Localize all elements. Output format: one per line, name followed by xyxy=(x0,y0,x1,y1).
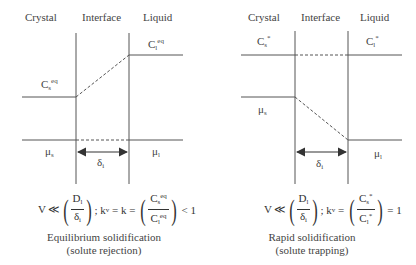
crystal-header: Crystal xyxy=(248,11,280,23)
rapid-solidification-panel: Crystal Interface Liquid Cs* Cl* μs μl δ… xyxy=(208,0,416,265)
cl-eq-label: Cleq xyxy=(148,38,164,52)
mu-l-label: μl xyxy=(152,146,160,159)
partition-fraction: Cseq Cleq xyxy=(148,190,169,229)
equilibrium-caption: Equilibrium solidification (solute rejec… xyxy=(0,231,208,257)
interface-header: Interface xyxy=(82,11,121,23)
cs-star-label: Cs* xyxy=(257,35,271,49)
mu-s-label: μs xyxy=(45,146,54,159)
interface-header: Interface xyxy=(301,11,340,23)
partition-fraction: Cs* Cl* xyxy=(357,190,375,229)
diffusion-fraction: Dl δi xyxy=(297,192,311,227)
mu-l-label: μl xyxy=(374,148,382,161)
rapid-equation: V ≪ ( Dl δi ) ; kv = ( Cs* Cl* ) = 1 xyxy=(264,190,402,229)
cl-star-label: Cl* xyxy=(366,35,379,49)
equilibrium-equation: V ≪ ( Dl δi ) ; kv = k = ( Cseq Cleq ) <… xyxy=(38,190,196,229)
liquid-header: Liquid xyxy=(360,11,389,23)
liquid-header: Liquid xyxy=(143,11,172,23)
delta-i-label: δi xyxy=(97,157,104,170)
crystal-header: Crystal xyxy=(25,11,57,23)
rapid-profile-diagram xyxy=(208,0,416,190)
rapid-caption: Rapid solidification (solute trapping) xyxy=(208,231,416,257)
equilibrium-solidification-panel: Crystal Interface Liquid Cseq Cleq μs μl… xyxy=(0,0,208,265)
interface-concentration-dashed xyxy=(76,55,129,97)
mu-s-label: μs xyxy=(258,104,267,117)
delta-i-label: δi xyxy=(316,158,323,171)
diffusion-fraction: Dl δi xyxy=(71,192,85,227)
interface-potential-dashed xyxy=(295,97,348,140)
cs-eq-label: Cseq xyxy=(41,78,58,92)
